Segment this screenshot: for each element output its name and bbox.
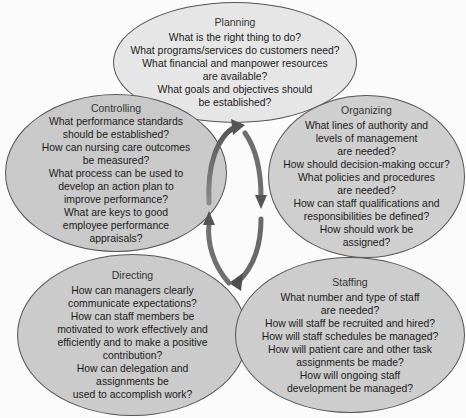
directing-question: assignments be [57, 375, 208, 388]
controlling-title: Controlling [91, 102, 141, 114]
controlling-question: What are keys to good [42, 206, 190, 219]
planning-title: Planning [215, 16, 256, 28]
organizing-question: How should decision-making occur? [283, 158, 449, 171]
directing-questions: How can managers clearly communicate exp… [57, 284, 208, 401]
directing-question: How can staff members be [57, 310, 208, 323]
staffing-question: How will ongoing staff [262, 369, 439, 382]
planning-question: What is the right thing to do? [130, 31, 339, 44]
controlling-question: be measured? [42, 154, 190, 167]
organizing-question: What policies and procedures [283, 171, 449, 184]
directing-question: efficiently and to make a positive [57, 336, 208, 349]
staffing-question: are needed? [262, 304, 439, 317]
organizing-question: How can staff qualifications and [283, 197, 449, 210]
staffing-questions: What number and type of staff are needed… [262, 291, 439, 395]
arrow-directing-to-controlling [209, 223, 229, 283]
directing-question: used to accomplish work? [57, 388, 208, 401]
arrow-staffing-to-directing [239, 219, 261, 281]
controlling-ellipse: Controlling What performance standards s… [5, 94, 227, 252]
directing-question: How can delegation and [57, 362, 208, 375]
organizing-question: levels of management [283, 132, 449, 145]
arrow-controlling-to-planning [209, 127, 235, 203]
planning-question: What programs/services do customers need… [130, 44, 339, 57]
organizing-question: What lines of authority and [283, 119, 449, 132]
directing-question: How can managers clearly [57, 284, 208, 297]
controlling-question: What performance standards [42, 115, 190, 128]
controlling-question: should be established? [42, 128, 190, 141]
directing-question: contribution? [57, 349, 208, 362]
arrowhead-icon [255, 195, 267, 209]
planning-question: What financial and manpower resources [130, 57, 339, 70]
organizing-questions: What lines of authority and levels of ma… [283, 119, 449, 249]
arrow-planning-to-organizing [245, 133, 261, 197]
organizing-question: How should work be [283, 223, 449, 236]
controlling-question: appraisals? [42, 232, 190, 245]
controlling-question: What process can be used to [42, 167, 190, 180]
staffing-question: development be managed? [262, 382, 439, 395]
controlling-questions: What performance standards should be est… [42, 115, 190, 245]
staffing-question: How will staff be recruited and hired? [262, 317, 439, 330]
organizing-ellipse: Organizing What lines of authority and l… [268, 95, 465, 258]
circular-cycle-arrows-icon [195, 115, 275, 295]
controlling-question: How can nursing care outcomes [42, 141, 190, 154]
arrowhead-icon [203, 211, 215, 225]
planning-question: are available? [130, 70, 339, 83]
staffing-question: How will staff schedules be managed? [262, 330, 439, 343]
planning-question: What goals and objectives should [130, 83, 339, 96]
directing-question: motivated to work effectively and [57, 323, 208, 336]
controlling-question: improve performance? [42, 193, 190, 206]
controlling-question: employee performance [42, 219, 190, 232]
staffing-question: What number and type of staff [262, 291, 439, 304]
controlling-question: develop an action plan to [42, 180, 190, 193]
organizing-question: responsibilities be defined? [283, 210, 449, 223]
directing-title: Directing [112, 269, 153, 281]
directing-question: communicate expectations? [57, 297, 208, 310]
staffing-question: assignments be made? [262, 356, 439, 369]
planning-questions: What is the right thing to do? What prog… [130, 31, 339, 109]
organizing-title: Organizing [341, 104, 392, 116]
organizing-question: are needed? [283, 184, 449, 197]
organizing-question: assigned? [283, 236, 449, 249]
staffing-question: How will patient care and other task [262, 343, 439, 356]
staffing-title: Staffing [332, 276, 367, 288]
organizing-question: are needed? [283, 145, 449, 158]
